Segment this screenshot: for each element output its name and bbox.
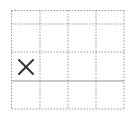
- tic-grid: [0, 0, 130, 115]
- dashed-grid-lines: [12, 11, 125, 110]
- x-mark-icon: [19, 60, 33, 74]
- marks-layer: [19, 60, 33, 74]
